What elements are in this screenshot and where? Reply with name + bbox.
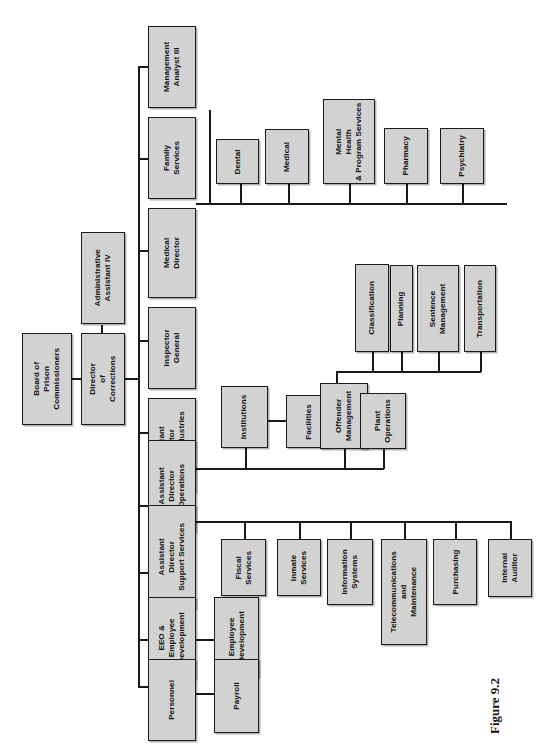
stub-personnel — [138, 686, 148, 688]
node-label: Planning — [397, 291, 407, 326]
drop-classification — [372, 352, 374, 372]
node-label: InmateServices — [289, 551, 309, 585]
node-label: AssistantDirectorSupport Services — [157, 523, 187, 591]
connector-ad-support-bus-lead — [196, 521, 210, 523]
stub-eeo — [138, 639, 148, 641]
node-label: EmployeeDevelopment — [227, 611, 247, 663]
org-chart: Board ofPrisonCommissioners DirectorofCo… — [0, 0, 554, 755]
node-administrative-assistant-iv[interactable]: AdministrativeAssistant IV — [81, 232, 125, 324]
node-label: SentenceManagement — [428, 283, 448, 333]
node-label: InformationSystems — [340, 549, 360, 594]
node-label: Psychiatry — [457, 135, 467, 177]
drop-mental-health — [349, 183, 351, 204]
node-medical[interactable]: Medical — [265, 129, 309, 184]
node-label: Medical — [282, 141, 292, 171]
node-label: Classification — [367, 281, 377, 335]
node-label: ManagementAnalyst III — [162, 42, 182, 92]
node-internal-auditor[interactable]: InternalAuditor — [488, 539, 532, 597]
node-psychiatry[interactable]: Psychiatry — [440, 128, 484, 184]
drop-telecommunications — [404, 521, 406, 539]
connector-personnel-payroll — [196, 693, 214, 695]
bus-offender-management-lead — [336, 371, 362, 373]
node-label: Dental — [233, 149, 243, 174]
node-board-of-prison-commissioners[interactable]: Board ofPrisonCommissioners — [22, 333, 72, 425]
node-mental-health-program-services[interactable]: MentalHealth& Program Services — [323, 99, 375, 184]
node-label: Personnel — [167, 680, 177, 720]
node-label: MedicalDirector — [162, 237, 182, 269]
node-label: DirectorofCorrections — [88, 356, 118, 402]
drop-medical — [288, 183, 290, 204]
node-transportation[interactable]: Transportation — [464, 265, 496, 352]
stub-inspector-general — [138, 340, 148, 342]
node-management-analyst-iii[interactable]: ManagementAnalyst III — [148, 26, 196, 108]
node-label: AdministrativeAssistant IV — [93, 249, 113, 306]
node-label: MentalHealth& Program Services — [334, 102, 364, 180]
node-label: InspectorGeneral — [162, 329, 182, 366]
bus-medical-director — [209, 110, 211, 204]
node-label: EEO &EmployeeDevelopment — [157, 612, 187, 664]
stub-management-analyst — [138, 66, 148, 68]
node-assistant-director-support-services[interactable]: AssistantDirectorSupport Services — [148, 505, 196, 609]
node-institutions[interactable]: Institutions — [221, 386, 268, 448]
node-medical-director[interactable]: MedicalDirector — [148, 208, 196, 298]
node-label: Pharmacy — [401, 136, 411, 175]
node-label: AssistantDirectorOperations — [157, 464, 187, 508]
node-sentence-management[interactable]: SentenceManagement — [417, 265, 459, 352]
node-personnel[interactable]: Personnel — [148, 659, 196, 741]
node-label: FiscalServices — [234, 551, 254, 585]
node-director-of-corrections[interactable]: DirectorofCorrections — [81, 333, 125, 425]
node-planning[interactable]: Planning — [390, 265, 413, 352]
drop-institutions — [245, 448, 247, 469]
node-inspector-general[interactable]: InspectorGeneral — [148, 307, 196, 389]
node-inmate-services[interactable]: InmateServices — [277, 539, 321, 596]
drop-dental — [240, 183, 242, 204]
node-label: TelecommunicationsandMaintenance — [389, 551, 419, 632]
figure-caption: Figure 9.2 — [455, 676, 535, 736]
node-pharmacy[interactable]: Pharmacy — [384, 128, 428, 184]
node-label: PlantOperations — [373, 399, 393, 443]
connector-eeo-employee-development — [196, 639, 214, 641]
drop-internal-auditor — [510, 521, 512, 539]
stub-family-services — [138, 158, 148, 160]
node-fiscal-services[interactable]: FiscalServices — [221, 539, 266, 596]
connector-ad-operations-bus-lead — [196, 468, 210, 470]
drop-planning — [401, 352, 403, 372]
node-label: Transportation — [475, 280, 485, 338]
node-label: Institutions — [240, 395, 250, 440]
stub-ad-support-services — [138, 572, 148, 574]
drop-offender-management — [344, 448, 346, 469]
node-payroll[interactable]: Payroll — [214, 659, 259, 733]
drop-purchasing — [455, 521, 457, 539]
connector-institutions-facilities — [268, 420, 286, 422]
drop-transportation — [480, 352, 482, 372]
node-label: Payroll — [232, 682, 242, 710]
stub-ad-operations — [138, 505, 148, 507]
connector-director-spine — [125, 378, 139, 380]
node-label: Board ofPrisonCommissioners — [32, 348, 62, 410]
drop-sentence-management — [438, 352, 440, 372]
node-information-systems[interactable]: InformationSystems — [327, 539, 373, 605]
stub-medical-director — [138, 250, 148, 252]
node-label: InternalAuditor — [500, 553, 520, 583]
drop-inmate-services — [299, 521, 301, 539]
drop-pharmacy — [406, 183, 408, 204]
connector-director-admin-assistant — [101, 325, 103, 333]
node-label: FamilyServices — [162, 141, 182, 175]
node-label: Facilities — [304, 404, 314, 439]
node-label: OffenderManagement — [334, 391, 354, 441]
node-dental[interactable]: Dental — [216, 139, 259, 184]
connector-medical-director-bus-lead — [196, 203, 210, 205]
node-family-services[interactable]: FamilyServices — [148, 117, 196, 199]
drop-fiscal-services — [244, 521, 246, 539]
bus-ad-support — [209, 521, 511, 523]
node-telecommunications-and-maintenance[interactable]: TelecommunicationsandMaintenance — [381, 539, 427, 645]
node-label: Purchasing — [450, 550, 460, 595]
node-plant-operations[interactable]: PlantOperations — [360, 393, 406, 449]
bus-ad-operations — [209, 468, 384, 470]
figure-caption-text: Figure 9.2 — [487, 678, 503, 734]
bus-offender-management — [360, 371, 481, 373]
node-classification[interactable]: Classification — [355, 264, 389, 352]
node-purchasing[interactable]: Purchasing — [433, 539, 477, 605]
drop-psychiatry — [462, 183, 464, 204]
drop-information-systems — [350, 521, 352, 539]
